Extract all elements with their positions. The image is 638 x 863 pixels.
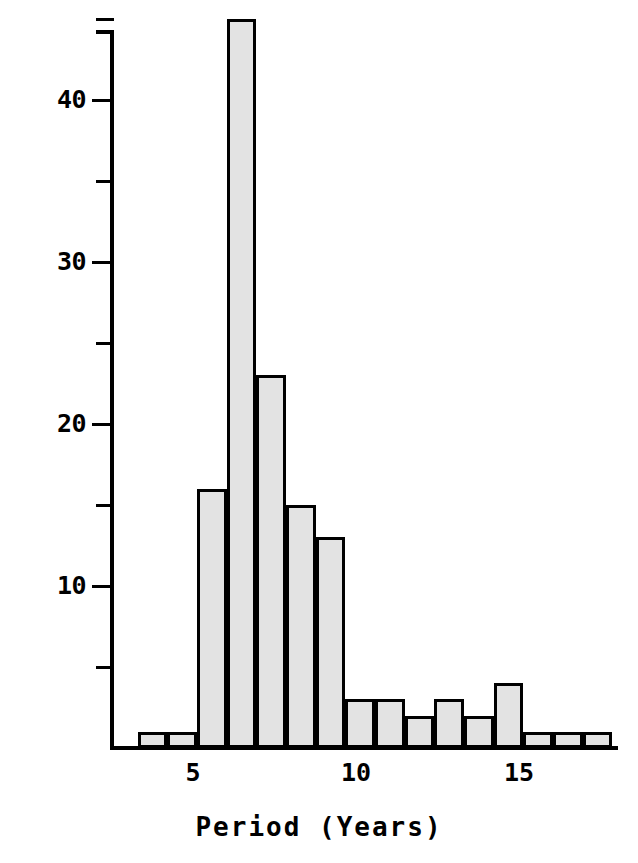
x-axis-tick-label: 10	[341, 760, 371, 785]
histogram-bar	[286, 505, 316, 748]
y-axis-minor-tick	[96, 180, 114, 183]
histogram-bar	[256, 375, 286, 748]
histogram-bar	[405, 716, 435, 748]
histogram-bar	[464, 716, 494, 748]
y-axis-minor-tick	[96, 342, 114, 345]
histogram-bars	[113, 30, 618, 748]
histogram-bar	[553, 732, 583, 748]
y-axis-major-tick	[92, 585, 114, 588]
histogram-bar	[316, 537, 346, 748]
y-axis-tick-label: 30	[57, 249, 86, 274]
histogram-bar	[227, 19, 257, 748]
y-axis-minor-tick	[96, 666, 114, 669]
histogram-figure: 10203040 Comet Count 51015 Period (Years…	[0, 0, 638, 863]
y-axis-tick-label: 20	[57, 411, 86, 436]
histogram-bar	[167, 732, 197, 748]
histogram-bar	[583, 732, 613, 748]
y-axis-minor-tick	[96, 18, 114, 21]
y-axis-minor-tick	[96, 504, 114, 507]
plot-area	[113, 30, 618, 748]
histogram-bar	[523, 732, 553, 748]
histogram-bar	[138, 732, 168, 748]
x-axis-title: Period (Years)	[0, 812, 638, 842]
y-axis-tick-label: 40	[57, 87, 86, 112]
histogram-bar	[345, 699, 375, 748]
y-axis-major-tick	[92, 261, 114, 264]
histogram-bar	[197, 489, 227, 748]
x-axis-tick-label: 15	[504, 760, 534, 785]
y-axis-major-tick	[92, 423, 114, 426]
histogram-bar	[375, 699, 405, 748]
histogram-bar	[434, 699, 464, 748]
y-axis-tick-label: 10	[57, 573, 86, 598]
histogram-bar	[494, 683, 524, 748]
y-axis-major-tick	[92, 99, 114, 102]
x-axis-tick-label: 5	[185, 760, 200, 785]
y-axis-top-cap	[96, 30, 114, 34]
